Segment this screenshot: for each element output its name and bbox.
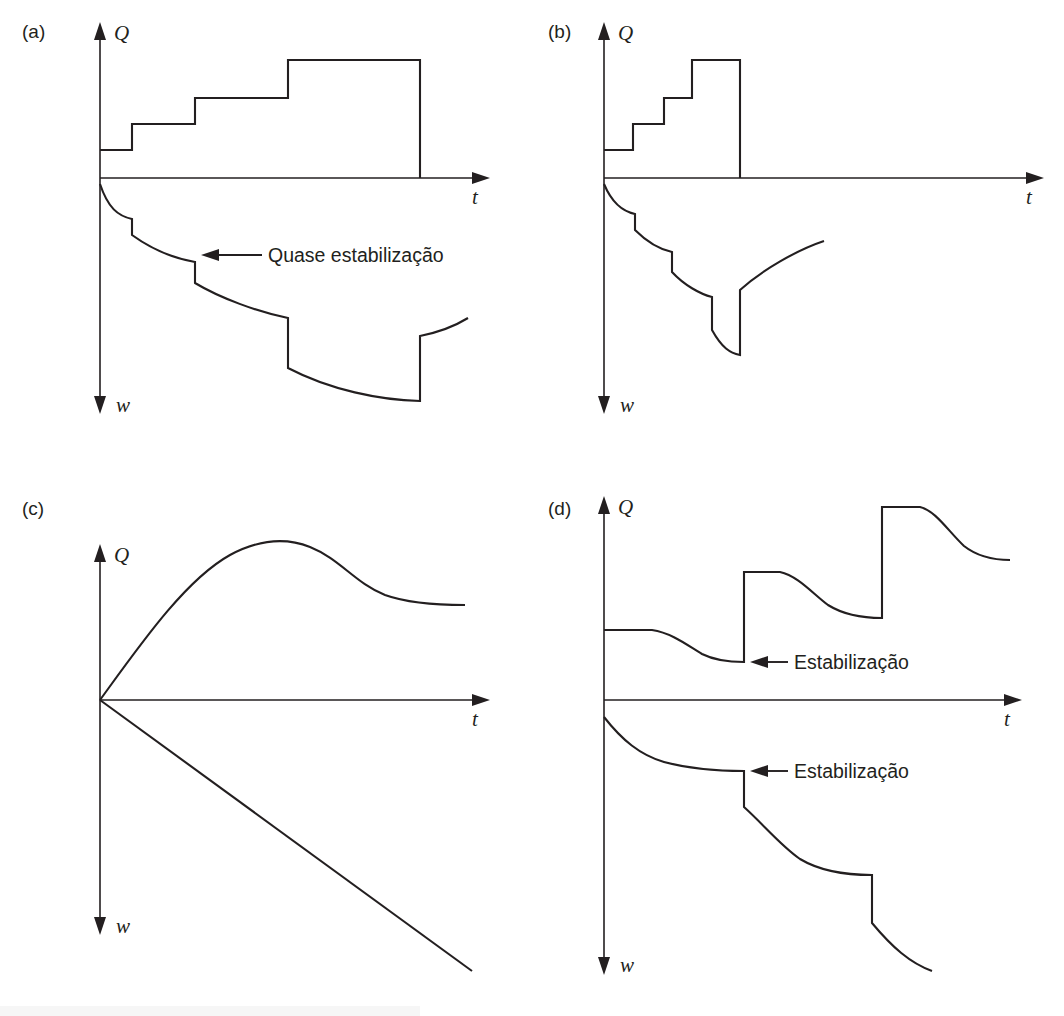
figure-container: (a) Q w t Quase estabilização (b) xyxy=(0,0,1064,1016)
panel-d-q-label: Q xyxy=(618,495,633,519)
panel-c-drawdown-curve xyxy=(100,700,472,971)
panel-d-t-label: t xyxy=(1004,707,1011,731)
panel-c-chart: (c) Q w t xyxy=(0,455,532,975)
panel-b-drawdown-curve xyxy=(604,184,824,355)
panel-a-q-arrowhead xyxy=(94,22,106,40)
panel-c-t-arrowhead xyxy=(472,694,490,706)
panel-a-q-label: Q xyxy=(114,21,129,45)
panel-d-discharge-curve xyxy=(604,507,1010,662)
panel-b: (b) Q w t xyxy=(532,0,1064,450)
panel-a: (a) Q w t Quase estabilização xyxy=(0,0,532,450)
panel-b-q-arrowhead xyxy=(598,22,610,40)
panel-a-chart: (a) Q w t Quase estabilização xyxy=(0,0,532,450)
panel-d: (d) Q w t Estabilização Estabilização xyxy=(532,455,1064,975)
panel-c-discharge-curve xyxy=(100,541,465,700)
panel-c-q-label: Q xyxy=(114,543,129,567)
panel-a-annotation-label: Quase estabilização xyxy=(268,244,444,266)
panel-c: (c) Q w t xyxy=(0,455,532,975)
panel-b-q-label: Q xyxy=(618,21,633,45)
panel-a-w-arrowhead xyxy=(94,396,106,414)
panel-d-t-arrowhead xyxy=(1004,694,1022,706)
panel-c-q-arrowhead xyxy=(94,544,106,562)
panel-c-tag: (c) xyxy=(22,498,44,519)
panel-d-tag: (d) xyxy=(548,498,571,519)
panel-a-tag: (a) xyxy=(22,21,45,42)
page-edge-artifact xyxy=(0,1006,420,1016)
panel-a-t-arrowhead xyxy=(472,172,490,184)
panel-a-drawdown-curve xyxy=(100,184,468,401)
panel-b-w-label: w xyxy=(620,393,634,417)
panel-d-annotation-lower-arrowhead xyxy=(750,765,768,777)
panel-d-chart: (d) Q w t Estabilização Estabilização xyxy=(532,455,1064,975)
panel-b-discharge-curve xyxy=(604,60,740,178)
panel-b-chart: (b) Q w t xyxy=(532,0,1064,450)
panel-b-t-arrowhead xyxy=(1026,172,1044,184)
panel-d-w-arrowhead xyxy=(598,957,610,975)
panel-c-w-arrowhead xyxy=(94,917,106,935)
panel-d-annotation-lower-label: Estabilização xyxy=(794,760,909,782)
panel-a-annotation-arrowhead xyxy=(201,249,219,261)
panel-b-w-arrowhead xyxy=(598,396,610,414)
panel-d-w-label: w xyxy=(620,953,634,977)
panel-d-annotation-upper-label: Estabilização xyxy=(794,651,909,673)
panel-d-annotation-upper-arrowhead xyxy=(750,656,768,668)
panel-a-t-label: t xyxy=(472,185,479,209)
panel-b-t-label: t xyxy=(1026,185,1033,209)
panel-b-tag: (b) xyxy=(548,21,571,42)
panel-c-t-label: t xyxy=(472,707,479,731)
panel-c-w-label: w xyxy=(116,914,130,938)
panel-d-q-arrowhead xyxy=(598,496,610,514)
panel-a-discharge-curve xyxy=(100,60,420,178)
panel-d-drawdown-curve xyxy=(604,717,932,971)
panel-a-w-label: w xyxy=(116,393,130,417)
